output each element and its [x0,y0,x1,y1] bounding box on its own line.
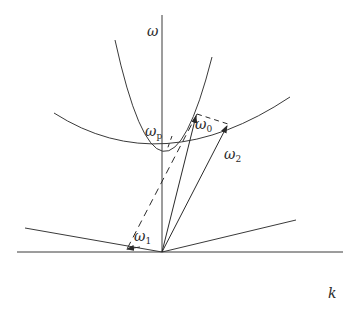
omega-p-sub: p [156,131,162,141]
light-line-right [162,220,296,252]
omega-1-sub: 1 [145,236,151,246]
omega-2-base: ω [224,146,235,162]
omega-2-sub: 2 [235,154,241,164]
k-axis-label: k [328,286,336,300]
omega-p-label: ωp [145,124,162,141]
omega-0-base: ω [195,116,206,132]
omega-p-base: ω [145,123,156,139]
omega-2-vector [162,126,227,252]
dispersion-diagram [0,0,362,318]
omega-0-label: ω0 [195,117,212,134]
omega-0-vector [162,116,196,252]
omega-axis-label: ω [147,24,158,38]
omega-0-sub: 0 [206,124,212,134]
omega-1-label: ω1 [134,229,151,246]
omega-2-label: ω2 [224,147,241,164]
omega-1-base: ω [134,228,145,244]
omega-axis-text: ω [147,23,158,39]
k-axis-text: k [328,285,336,301]
photon-dispersion-parabola [115,40,212,151]
